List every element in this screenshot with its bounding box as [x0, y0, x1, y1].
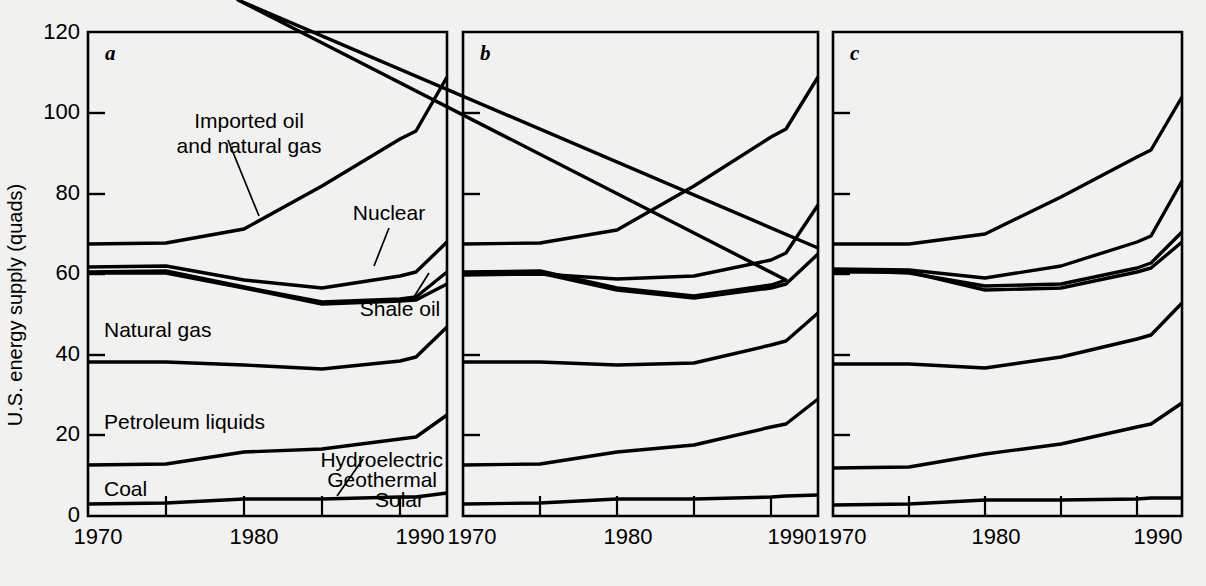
- panel-c-letter: c: [850, 41, 860, 65]
- panel-b-x-label-1980: 1980: [604, 524, 653, 549]
- panel-a-y-tick-labels: 0 20 40 60 80 100 120: [43, 19, 80, 527]
- energy-supply-figure: U.S. energy supply (quads) 0 20 40 60 80…: [0, 0, 1206, 586]
- nuclear-label: Nuclear: [353, 201, 425, 224]
- panel-c-x-label-1990: 1990: [1134, 524, 1183, 549]
- series-petroleum-liquids: [463, 313, 818, 365]
- panel-a-letter: a: [105, 41, 116, 65]
- panel-c-x-label-1970: 1970: [818, 524, 867, 549]
- panel-b-series: [238, 0, 818, 504]
- y-tick-label-80: 80: [56, 180, 80, 205]
- y-tick-label-100: 100: [43, 99, 80, 124]
- panel-a-x-label-1980: 1980: [230, 524, 279, 549]
- natural-gas-label: Natural gas: [104, 318, 211, 341]
- chart-svg: U.S. energy supply (quads) 0 20 40 60 80…: [0, 0, 1206, 586]
- panel-c-x-label-1980: 1980: [972, 524, 1021, 549]
- panel-b-x-label-1970: 1970: [448, 524, 497, 549]
- solar-label: Solar: [375, 488, 424, 511]
- petroleum-liquids-label: Petroleum liquids: [104, 410, 265, 433]
- series-hydro-geothermal-solar: [463, 495, 818, 504]
- series-hydro-geothermal-solar: [833, 498, 1182, 505]
- imported-oil-label-line2: and natural gas: [177, 134, 322, 157]
- series-shale-oil: [238, 0, 818, 296]
- imported-oil-label-line1: Imported oil: [194, 109, 304, 132]
- panel-b-x-label-1990: 1990: [768, 524, 817, 549]
- series-shale-oil: [833, 232, 1182, 286]
- series-coal: [833, 403, 1182, 468]
- series-natural-gas: [833, 242, 1182, 290]
- panel-a-x-label-1970: 1970: [74, 524, 123, 549]
- y-tick-label-120: 120: [43, 19, 80, 44]
- panel-a-x-label-1990: 1990: [396, 524, 445, 549]
- series-nuclear: [88, 242, 447, 288]
- series-petroleum-liquids: [833, 303, 1182, 368]
- panel-c-y-ticks: [833, 113, 850, 435]
- y-tick-label-20: 20: [56, 421, 80, 446]
- coal-label: Coal: [104, 477, 147, 500]
- leader-nuclear: [374, 228, 389, 266]
- panel-a: 0 20 40 60 80 100 120: [43, 19, 447, 549]
- series-coal: [463, 399, 818, 465]
- series-nuclear: [833, 181, 1182, 278]
- y-tick-label-60: 60: [56, 260, 80, 285]
- series-imported-oil-natural-gas: [463, 77, 818, 244]
- panel-b-letter: b: [480, 41, 491, 65]
- y-axis-title: U.S. energy supply (quads): [4, 184, 26, 426]
- series-imported-oil-natural-gas: [833, 97, 1182, 244]
- y-tick-label-40: 40: [56, 341, 80, 366]
- shale-oil-label: Shale oil: [360, 297, 441, 320]
- panel-c-series: [833, 97, 1182, 505]
- panel-c: c 1970 1980 1990: [818, 32, 1183, 549]
